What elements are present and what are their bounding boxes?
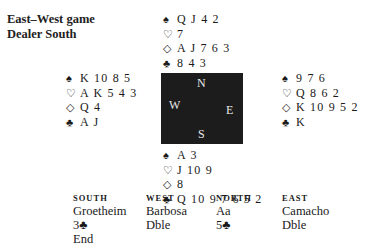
heart-icon: ♡ — [163, 163, 177, 178]
compass-east: E — [226, 103, 233, 118]
seat-label: EAST — [282, 192, 366, 204]
bid-call: End — [73, 232, 163, 246]
south-diamonds: 8 — [177, 177, 184, 191]
club-icon: ♣ — [163, 56, 177, 71]
heart-icon: ♡ — [163, 27, 177, 42]
north-spades: Q J 4 2 — [177, 12, 220, 26]
west-spades: K 10 8 5 — [80, 71, 131, 85]
spade-icon: ♠ — [163, 12, 177, 27]
north-hearts: 7 — [177, 27, 184, 41]
south-spades: A 3 — [177, 148, 198, 162]
east-clubs: K — [296, 115, 306, 129]
heart-icon: ♡ — [66, 86, 80, 101]
vulnerability-label: East–West game — [7, 12, 95, 27]
diamond-icon: ◇ — [282, 100, 296, 115]
player-name: Camacho — [282, 204, 366, 218]
heart-icon: ♡ — [282, 86, 296, 101]
north-clubs: 8 4 3 — [177, 56, 207, 70]
diamond-icon: ◇ — [66, 100, 80, 115]
north-hand: ♠Q J 4 2 ♡7 ◇A J 7 6 3 ♣8 4 3 — [163, 12, 230, 70]
compass-box: N W E S — [161, 73, 243, 144]
spade-icon: ♠ — [163, 148, 177, 163]
spade-icon: ♠ — [66, 71, 80, 86]
compass-north: N — [197, 76, 206, 91]
south-hearts: J 10 9 — [177, 163, 213, 177]
east-hearts: Q 8 6 2 — [296, 86, 340, 100]
compass-south: S — [198, 127, 205, 142]
east-hand: ♠9 7 6 ♡Q 8 6 2 ◇K 10 9 5 2 ♣K — [282, 71, 359, 129]
club-icon: ♣ — [66, 115, 80, 130]
deal-header: East–West game Dealer South — [7, 12, 95, 42]
west-hand: ♠K 10 8 5 ♡A K 5 4 3 ◇Q 4 ♣A J — [66, 71, 137, 129]
east-diamonds: K 10 9 5 2 — [296, 100, 359, 114]
east-spades: 9 7 6 — [296, 71, 326, 85]
spade-icon: ♠ — [282, 71, 296, 86]
diamond-icon: ◇ — [163, 41, 177, 56]
dealer-label: Dealer South — [7, 27, 95, 42]
diamond-icon: ◇ — [163, 177, 177, 192]
club-icon: ♣ — [282, 115, 296, 130]
bid-call: Dble — [282, 218, 366, 232]
west-diamonds: Q 4 — [80, 100, 101, 114]
bidding-column-east: EAST Camacho Dble — [282, 192, 366, 232]
west-hearts: A K 5 4 3 — [80, 86, 137, 100]
west-clubs: A J — [80, 115, 99, 129]
north-diamonds: A J 7 6 3 — [177, 41, 230, 55]
compass-west: W — [169, 98, 180, 113]
